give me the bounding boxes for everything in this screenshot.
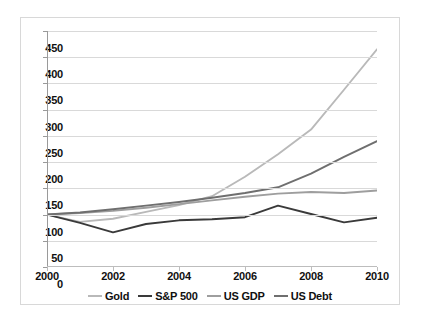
- legend-item-gold[interactable]: Gold: [88, 290, 129, 302]
- x-tick-label: 2000: [23, 270, 71, 283]
- gridline: [47, 83, 377, 84]
- y-tick-mark: [43, 57, 47, 58]
- gridline: [47, 31, 377, 32]
- y-tick-mark: [43, 241, 47, 242]
- legend-swatch-icon: [138, 295, 152, 297]
- y-tick-mark: [43, 162, 47, 163]
- x-axis-line: [47, 266, 377, 267]
- legend-label: Gold: [105, 290, 129, 302]
- legend-label: US GDP: [224, 290, 265, 302]
- legend-swatch-icon: [207, 295, 221, 297]
- legend-swatch-icon: [88, 295, 102, 297]
- x-tick-label: 2008: [287, 270, 335, 283]
- y-tick-mark: [43, 83, 47, 84]
- y-tick-mark: [43, 31, 47, 32]
- x-tick-label: 2004: [155, 270, 203, 283]
- x-tick-label: 2002: [89, 270, 137, 283]
- x-tick-label: 2010: [353, 270, 401, 283]
- gridline: [47, 241, 377, 242]
- gridline: [47, 188, 377, 189]
- chart-figure: 050100150200250300350400450 200020022004…: [20, 17, 400, 305]
- y-axis-line: [47, 31, 48, 267]
- legend-item-us-debt[interactable]: US Debt: [274, 290, 332, 302]
- legend-item-s-p-500[interactable]: S&P 500: [138, 290, 197, 302]
- x-tick-label: 2006: [221, 270, 269, 283]
- y-tick-mark: [43, 136, 47, 137]
- legend-label: US Debt: [291, 290, 332, 302]
- y-tick-mark: [43, 188, 47, 189]
- gridline: [47, 136, 377, 137]
- x-axis-tick-labels: 200020022004200620082010: [47, 270, 377, 286]
- legend-swatch-icon: [274, 295, 288, 297]
- gridline: [47, 215, 377, 216]
- plot-area: [47, 31, 377, 267]
- legend-label: S&P 500: [155, 290, 197, 302]
- y-tick-mark: [43, 215, 47, 216]
- gridline: [47, 57, 377, 58]
- gridline: [47, 162, 377, 163]
- chart-legend: GoldS&P 500US GDPUS Debt: [21, 290, 399, 302]
- legend-item-us-gdp[interactable]: US GDP: [207, 290, 265, 302]
- gridlines: [47, 31, 377, 267]
- y-tick-mark: [43, 110, 47, 111]
- gridline: [47, 110, 377, 111]
